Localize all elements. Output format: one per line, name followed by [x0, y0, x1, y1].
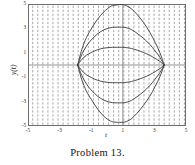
y-tick-label: 3	[17, 26, 26, 31]
y-tick-label: 5	[17, 1, 26, 6]
solution-curves	[28, 4, 186, 126]
y-tick-label: -5	[17, 123, 26, 128]
y-axis-label-text: y(t)	[9, 65, 18, 75]
figure-container: -5-3-1135 531-1-3-5 t y(t) Problem 13.	[0, 0, 195, 165]
plot-area	[28, 4, 186, 126]
x-tick-label: -5	[26, 128, 30, 133]
y-tick-label: 1	[17, 50, 26, 55]
figure-caption: Problem 13.	[0, 147, 195, 158]
x-tick-label: 1	[122, 128, 125, 133]
y-axis-label: y(t)	[0, 39, 8, 49]
x-tick-label: -1	[89, 128, 93, 133]
x-tick-label: -3	[57, 128, 61, 133]
x-axis-label: t	[105, 131, 107, 139]
x-tick-label: 3	[153, 128, 156, 133]
y-tick-label: -3	[17, 99, 26, 104]
x-tick-label: 5	[185, 128, 188, 133]
y-tick-label: -1	[17, 75, 26, 80]
